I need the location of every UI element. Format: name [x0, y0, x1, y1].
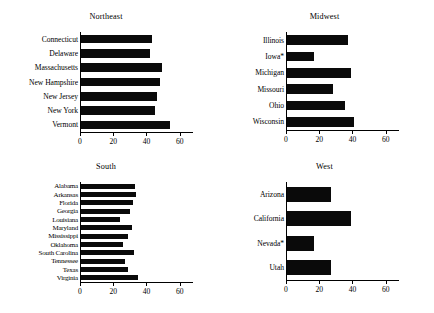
bar [81, 242, 123, 247]
category-label: Massachusetts [12, 63, 78, 72]
bar [81, 259, 125, 264]
plot-area: 0204060 [80, 32, 193, 132]
plot-area: 0204060 [286, 182, 399, 280]
bar [81, 217, 120, 222]
bar [287, 211, 351, 226]
category-label: Maryland [12, 224, 78, 232]
category-label: Arkansas [12, 191, 78, 199]
category-label: Tennessee [12, 257, 78, 265]
bar [287, 84, 333, 94]
category-label: Utah [232, 263, 284, 272]
bar [287, 260, 331, 275]
clipped-header-text [30, 0, 360, 3]
x-axis-tick-label: 60 [176, 287, 184, 296]
bar [81, 78, 160, 87]
plot-area: 0204060 [80, 182, 193, 282]
bar [81, 106, 155, 115]
bar [81, 92, 157, 101]
category-label: Mississippi [12, 232, 78, 240]
bar [81, 225, 132, 230]
bar [81, 63, 162, 72]
category-label: Georgia [12, 207, 78, 215]
category-label: Delaware [12, 49, 78, 58]
category-label: Arizona [232, 190, 284, 199]
category-label: New Jersey [12, 92, 78, 101]
x-axis-tick-label: 40 [349, 135, 357, 144]
x-axis-tick [113, 283, 114, 286]
x-axis-tick [319, 131, 320, 134]
bar [287, 52, 314, 62]
bar [81, 250, 134, 255]
bar [287, 35, 348, 45]
category-label: Wisconsin [232, 117, 284, 126]
x-axis-tick [80, 133, 81, 136]
x-axis-tick-label: 60 [382, 135, 390, 144]
x-axis-tick-label: 0 [284, 285, 288, 294]
y-axis-line [286, 32, 287, 130]
panel-midwest: MidwestIllinoisIowa*MichiganMissouriOhio… [215, 12, 434, 157]
bar [81, 209, 130, 214]
category-label: Louisiana [12, 216, 78, 224]
bar [287, 117, 354, 127]
category-label: New York [12, 106, 78, 115]
bar [81, 121, 170, 130]
category-label: Michigan [232, 68, 284, 77]
bar [81, 35, 152, 44]
bar [81, 234, 128, 239]
bar [81, 275, 138, 280]
category-label: Oklahoma [12, 241, 78, 249]
bar [81, 267, 128, 272]
panel-title: South [0, 162, 212, 171]
category-label: Iowa* [232, 52, 284, 61]
category-label: Illinois [232, 36, 284, 45]
x-axis-line [286, 130, 399, 131]
x-axis-tick [146, 133, 147, 136]
bar [81, 184, 135, 189]
bar [287, 68, 351, 78]
bar [81, 192, 136, 197]
x-axis-tick [286, 281, 287, 284]
panel-west: WestArizonaCaliforniaNevada*Utah0204060 [215, 162, 434, 312]
bar [81, 200, 133, 205]
category-label: Florida [12, 199, 78, 207]
panel-northeast: NortheastConnecticutDelawareMassachusett… [0, 12, 212, 157]
category-label: Vermont [12, 120, 78, 129]
category-label: Alabama [12, 182, 78, 190]
panel-title: Midwest [215, 12, 434, 21]
category-label: Virginia [12, 274, 78, 282]
category-label: South Carolina [12, 249, 78, 257]
category-label: California [232, 214, 284, 223]
x-axis-tick [146, 283, 147, 286]
x-axis-tick [80, 283, 81, 286]
bar [81, 49, 150, 58]
x-axis-tick-label: 0 [78, 137, 82, 146]
x-axis-tick-label: 20 [109, 137, 117, 146]
x-axis-tick [386, 131, 387, 134]
x-axis-tick-label: 40 [349, 285, 357, 294]
x-axis-tick [113, 133, 114, 136]
x-axis-tick-label: 40 [143, 137, 151, 146]
panel-title: Northeast [0, 12, 212, 21]
category-label: Missouri [232, 85, 284, 94]
category-label: Connecticut [12, 35, 78, 44]
bar [287, 236, 314, 251]
x-axis-tick-label: 40 [143, 287, 151, 296]
x-axis-tick [352, 131, 353, 134]
x-axis-line [80, 132, 193, 133]
category-label: New Hampshire [12, 78, 78, 87]
plot-area: 0204060 [286, 32, 399, 130]
multi-panel-bar-chart-figure: NortheastConnecticutDelawareMassachusett… [0, 0, 434, 313]
x-axis-tick-label: 0 [78, 287, 82, 296]
x-axis-tick [352, 281, 353, 284]
panel-south: SouthAlabamaArkansasFloridaGeorgiaLouisi… [0, 162, 212, 312]
x-axis-tick-label: 60 [176, 137, 184, 146]
x-axis-tick [286, 131, 287, 134]
x-axis-tick-label: 60 [382, 285, 390, 294]
x-axis-tick-label: 20 [315, 135, 323, 144]
x-axis-tick-label: 0 [284, 135, 288, 144]
x-axis-tick [180, 133, 181, 136]
x-axis-tick [319, 281, 320, 284]
x-axis-line [286, 280, 399, 281]
category-label: Texas [12, 266, 78, 274]
category-label: Nevada* [232, 239, 284, 248]
